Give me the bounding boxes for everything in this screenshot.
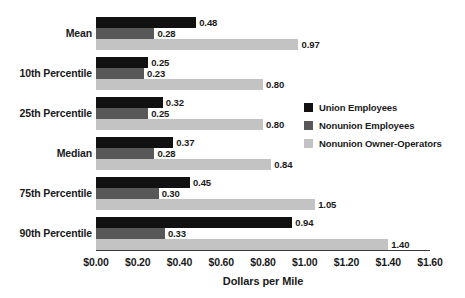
x-tick-label: $0.80: [250, 256, 275, 268]
bar-value-label: 0.48: [199, 17, 217, 28]
bar-value-label: 0.80: [266, 119, 284, 130]
category-label: Mean: [0, 27, 92, 39]
bar-value-label: 0.94: [295, 217, 313, 228]
x-tick-label: $0.60: [209, 256, 234, 268]
legend-swatch-icon: [304, 139, 313, 148]
category-label: 90th Percentile: [0, 227, 92, 239]
x-tick-label: $1.00: [292, 256, 317, 268]
bar-value-label: 0.28: [157, 148, 175, 159]
bar-value-label: 1.40: [391, 239, 409, 250]
bar-value-label: 0.28: [157, 28, 175, 39]
bar-row: 1.05: [96, 199, 430, 210]
bar-row: 0.25: [96, 57, 430, 68]
bar-row: 1.40: [96, 239, 430, 250]
bar-value-label: 0.97: [301, 39, 319, 50]
bar-row: 0.30: [96, 188, 430, 199]
bar: [96, 57, 148, 68]
bar-group: 0.450.301.05: [96, 177, 430, 210]
bar-row: 0.45: [96, 177, 430, 188]
x-tick-label: $0.40: [167, 256, 192, 268]
bar: [96, 97, 163, 108]
bar-group: 0.480.280.97: [96, 17, 430, 50]
bar-value-label: 1.05: [318, 199, 336, 210]
bar: [96, 148, 154, 159]
bar-row: 0.94: [96, 217, 430, 228]
legend-item: Nonunion Employees: [304, 118, 442, 133]
bar-row: 0.84: [96, 159, 430, 170]
legend-item: Nonunion Owner-Operators: [304, 136, 442, 151]
x-tick-label: $0.20: [125, 256, 150, 268]
bar-value-label: 0.25: [151, 57, 169, 68]
x-tick-label: $0.00: [83, 256, 108, 268]
bar-row: 0.23: [96, 68, 430, 79]
bar: [96, 119, 263, 130]
bar: [96, 188, 159, 199]
x-tick-label: $1.20: [334, 256, 359, 268]
bar: [96, 177, 190, 188]
bar: [96, 17, 196, 28]
legend-swatch-icon: [304, 103, 313, 112]
bar: [96, 108, 148, 119]
legend-item: Union Employees: [304, 100, 442, 115]
bar-value-label: 0.23: [147, 68, 165, 79]
category-label: Median: [0, 147, 92, 159]
legend-label: Nonunion Owner-Operators: [319, 138, 442, 149]
category-label: 10th Percentile: [0, 67, 92, 79]
x-axis-line: [96, 250, 430, 251]
bar-row: 0.28: [96, 28, 430, 39]
bar: [96, 39, 298, 50]
bar-value-label: 0.80: [266, 79, 284, 90]
bar-value-label: 0.37: [176, 137, 194, 148]
bar-chart: Mean10th Percentile25th PercentileMedian…: [0, 0, 465, 298]
bar-group: 0.940.331.40: [96, 217, 430, 250]
bar: [96, 228, 165, 239]
chart-legend: Union EmployeesNonunion EmployeesNonunio…: [304, 100, 442, 154]
legend-label: Nonunion Employees: [319, 120, 414, 131]
bar-row: 0.48: [96, 17, 430, 28]
category-label: 75th Percentile: [0, 187, 92, 199]
bar: [96, 137, 173, 148]
bar: [96, 217, 292, 228]
legend-swatch-icon: [304, 121, 313, 130]
bar-value-label: 0.45: [193, 177, 211, 188]
bar-value-label: 0.30: [162, 188, 180, 199]
bar: [96, 68, 144, 79]
bar: [96, 239, 388, 250]
x-tick-label: $1.60: [417, 256, 442, 268]
bar-value-label: 0.25: [151, 108, 169, 119]
bar-row: 0.97: [96, 39, 430, 50]
bar-value-label: 0.32: [166, 97, 184, 108]
bar-group: 0.250.230.80: [96, 57, 430, 90]
bar-row: 0.33: [96, 228, 430, 239]
x-axis-title: Dollars per Mile: [96, 275, 430, 287]
bar-value-label: 0.84: [274, 159, 292, 170]
bar: [96, 79, 263, 90]
bar-row: 0.80: [96, 79, 430, 90]
bar-value-label: 0.33: [168, 228, 186, 239]
bar: [96, 159, 271, 170]
x-tick-label: $1.40: [376, 256, 401, 268]
category-label: 25th Percentile: [0, 107, 92, 119]
category-axis-labels: Mean10th Percentile25th PercentileMedian…: [0, 10, 92, 250]
legend-label: Union Employees: [319, 102, 397, 113]
bar: [96, 199, 315, 210]
bar: [96, 28, 154, 39]
